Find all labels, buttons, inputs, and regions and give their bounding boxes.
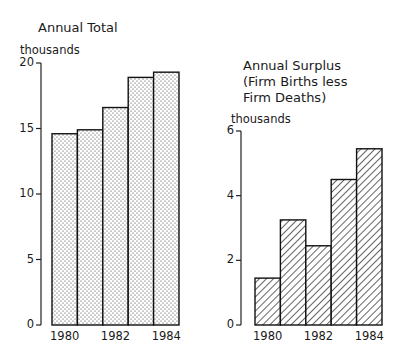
x-tick-label: 1982 [96, 329, 136, 343]
bar-1984 [154, 72, 179, 325]
y-tick-label: 10 [14, 186, 34, 200]
bar-1980 [52, 134, 77, 325]
bar-1983 [331, 180, 356, 326]
y-tick-label: 6 [214, 123, 234, 137]
right-unit-label: thousands [231, 112, 291, 126]
right-chart-title: Annual Surplus (Firm Births less Firm De… [243, 58, 347, 106]
y-tick-label: 2 [214, 252, 234, 266]
annual-surplus-chart [236, 131, 382, 325]
bar-1981 [280, 220, 305, 325]
y-tick-label: 5 [14, 252, 34, 266]
y-tick-label: 15 [14, 121, 34, 135]
x-tick-label: 1984 [349, 329, 389, 343]
bar-1984 [357, 149, 382, 325]
x-tick-label: 1982 [299, 329, 339, 343]
left-chart-title: Annual Total [38, 20, 118, 36]
y-tick-label: 0 [14, 317, 34, 331]
x-tick-label: 1984 [146, 329, 186, 343]
bar-1981 [77, 130, 102, 325]
bar-1983 [128, 77, 153, 325]
y-tick-label: 0 [214, 317, 234, 331]
y-tick-label: 20 [14, 55, 34, 69]
annual-total-chart [36, 63, 179, 325]
x-tick-label: 1980 [45, 329, 85, 343]
x-tick-label: 1980 [248, 329, 288, 343]
bar-1982 [306, 246, 331, 325]
bar-1982 [103, 108, 128, 325]
bar-1980 [255, 278, 280, 325]
y-tick-label: 4 [214, 188, 234, 202]
